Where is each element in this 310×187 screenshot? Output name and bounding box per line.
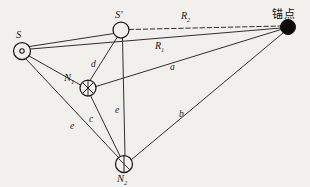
anchor-point-label: 锚点 (272, 5, 295, 21)
edge-label-b: b (179, 110, 184, 120)
node-N1[interactable] (80, 80, 96, 96)
edge-S-Sprime (30, 34, 115, 47)
edge-label-R1: R1 (155, 41, 164, 53)
node-label-Sprime: S' (115, 10, 123, 21)
edge-Sprime-N2 (123, 38, 126, 156)
edge-label-a: a (170, 63, 175, 73)
node-anchor-point[interactable] (281, 20, 296, 35)
edge-label-e-S-N2: e (70, 122, 74, 132)
edge-label-R2: R2 (181, 11, 190, 23)
edge-label-c-N1-N2: c (89, 115, 93, 125)
edge-label-d-N1-Sprime: d (91, 60, 96, 70)
node-label-N2: N2 (117, 174, 127, 187)
figure-canvas: S S' N1 N2 锚点 R2 R1 a b d e c e (0, 0, 310, 187)
edge-label-e-Sprime-N2: e (115, 106, 119, 116)
node-label-S: S (16, 30, 21, 41)
node-S[interactable] (14, 43, 31, 60)
diagram-svg (0, 0, 310, 187)
node-N2[interactable] (116, 156, 133, 173)
node-label-N1: N1 (64, 73, 74, 86)
edge-Sprime-anchor (129, 26, 281, 30)
node-Sprime[interactable] (113, 22, 129, 38)
